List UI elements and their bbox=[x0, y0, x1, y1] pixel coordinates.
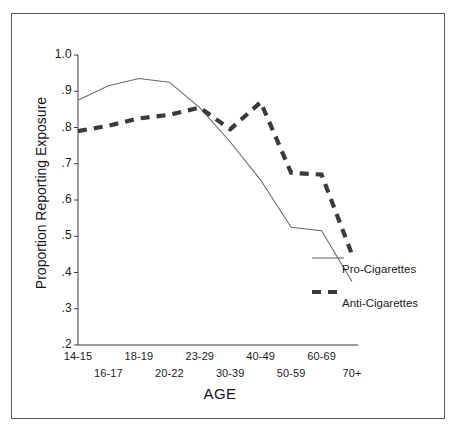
legend-label-pro-cigarettes: Pro-Cigarettes bbox=[342, 263, 416, 275]
y-tick-label: .2 bbox=[34, 337, 72, 351]
chart-figure: 1.0.9.8.7.6.5.4.3.2 14-1516-1718-1920-22… bbox=[0, 0, 462, 437]
x-axis-title: AGE bbox=[120, 385, 320, 402]
legend-label-anti-cigarettes: Anti-Cigarettes bbox=[342, 297, 418, 309]
axes bbox=[74, 55, 358, 345]
x-category-label: 23-29 bbox=[174, 350, 226, 362]
x-category-label: 14-15 bbox=[52, 350, 104, 362]
x-category-label: 20-22 bbox=[143, 367, 195, 379]
x-category-label: 18-19 bbox=[113, 350, 165, 362]
x-category-label: 30-39 bbox=[204, 367, 256, 379]
y-axis-title: Proportion Reporting Exposure bbox=[33, 68, 49, 318]
series-line-pro-cigarettes bbox=[78, 79, 352, 282]
x-category-label: 16-17 bbox=[82, 367, 134, 379]
y-tick-label: 1.0 bbox=[34, 47, 72, 61]
series-lines bbox=[78, 79, 352, 282]
x-category-label: 70+ bbox=[326, 367, 378, 379]
x-category-label: 40-49 bbox=[235, 350, 287, 362]
x-category-label: 50-59 bbox=[265, 367, 317, 379]
legend-swatches bbox=[312, 258, 344, 292]
x-category-label: 60-69 bbox=[296, 350, 348, 362]
